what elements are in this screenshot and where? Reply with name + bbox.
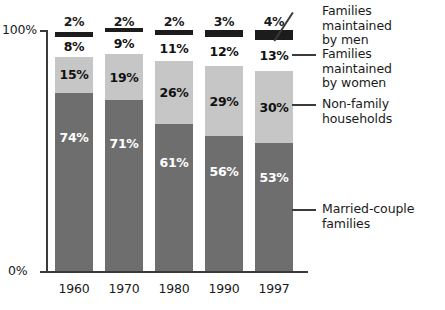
bar-segment-married-couple-1970[interactable]: 71% — [105, 100, 143, 271]
legend-families-men[interactable]: Families maintained by men — [322, 4, 445, 48]
bar-segment-families-women-1990[interactable]: 12% — [205, 37, 243, 66]
bar-segment-married-couple-1980[interactable]: 61% — [155, 124, 193, 271]
bar-segment-non-family-1997[interactable]: 30% — [255, 71, 293, 143]
stacked-bar-chart: 100% 0% 74%15%8%2%71%19%9%2%61%26%11%2%5… — [0, 0, 445, 310]
bar-segment-married-couple-1990[interactable]: 56% — [205, 136, 243, 271]
bar-segment-married-couple-1997[interactable]: 53% — [255, 143, 293, 271]
bar-segment-non-family-1990[interactable]: 29% — [205, 66, 243, 136]
bar-segment-families-men-1990[interactable] — [205, 30, 243, 37]
y-axis-label-0: 0% — [8, 263, 27, 278]
bar-group-1980: 61%26%11%2% — [155, 30, 193, 271]
bar-segment-non-family-1980[interactable]: 26% — [155, 61, 193, 124]
bar-value-label-non-family-1970: 19% — [109, 70, 138, 85]
bar-value-label-married-couple-1960: 74% — [59, 130, 88, 145]
bar-segment-families-women-1970[interactable]: 9% — [105, 32, 143, 54]
bar-segment-families-women-1980[interactable]: 11% — [155, 35, 193, 62]
x-axis-label-1990: 1990 — [201, 281, 247, 296]
bar-value-label-families-women-1970: 9% — [114, 36, 135, 51]
bar-value-label-non-family-1990: 29% — [209, 94, 238, 109]
bar-value-label-non-family-1997: 30% — [259, 100, 288, 115]
legend-nonfamily[interactable]: Non-family households — [322, 97, 392, 126]
bar-segment-married-couple-1960[interactable]: 74% — [55, 93, 93, 271]
bar-group-1960: 74%15%8%2% — [55, 30, 93, 271]
bar-value-label-non-family-1960: 15% — [59, 67, 88, 82]
bar-segment-families-women-1997[interactable]: 13% — [255, 40, 293, 71]
bar-value-label-married-couple-1980: 61% — [159, 155, 188, 170]
bar-value-label-married-couple-1997: 53% — [259, 170, 288, 185]
bar-value-label-married-couple-1990: 56% — [209, 164, 238, 179]
bar-value-label-families-men-1970: 2% — [105, 14, 143, 29]
y-axis-line — [46, 30, 48, 273]
bar-group-1997: 53%30%13%4% — [255, 30, 293, 271]
bar-value-label-married-couple-1970: 71% — [109, 136, 138, 151]
bar-value-label-families-women-1997: 13% — [259, 48, 288, 63]
bar-segment-families-men-1960[interactable] — [55, 32, 93, 37]
x-axis-label-1997: 1997 — [251, 281, 297, 296]
legend-nonfamily-leader-line — [292, 104, 316, 106]
bar-value-label-families-men-1990: 3% — [205, 14, 243, 29]
plot-area: 100% 0% 74%15%8%2%71%19%9%2%61%26%11%2%5… — [0, 0, 445, 310]
bar-value-label-families-women-1980: 11% — [159, 41, 188, 56]
y-axis-tick-100 — [40, 30, 47, 32]
legend-families-women-leader-line — [292, 54, 316, 56]
x-axis-label-1960: 1960 — [51, 281, 97, 296]
legend-married[interactable]: Married-couple families — [322, 202, 414, 231]
bar-value-label-families-men-1980: 2% — [155, 14, 193, 29]
x-axis-label-1970: 1970 — [101, 281, 147, 296]
y-axis-label-100: 100% — [2, 22, 37, 37]
legend-married-leader-line — [292, 209, 316, 211]
legend-families-women[interactable]: Families maintained by women — [322, 47, 445, 91]
bar-value-label-families-women-1960: 8% — [64, 39, 85, 54]
bar-segment-non-family-1970[interactable]: 19% — [105, 54, 143, 100]
x-axis-line — [46, 271, 308, 273]
bar-value-label-families-women-1990: 12% — [209, 44, 238, 59]
bar-segment-families-men-1980[interactable] — [155, 30, 193, 35]
bar-group-1990: 56%29%12%3% — [205, 30, 243, 271]
bar-group-1970: 71%19%9%2% — [105, 30, 143, 271]
bar-value-label-non-family-1980: 26% — [159, 85, 188, 100]
bar-value-label-families-men-1960: 2% — [55, 14, 93, 29]
bar-segment-non-family-1960[interactable]: 15% — [55, 57, 93, 93]
bar-segment-families-women-1960[interactable]: 8% — [55, 37, 93, 56]
x-axis-label-1980: 1980 — [151, 281, 197, 296]
